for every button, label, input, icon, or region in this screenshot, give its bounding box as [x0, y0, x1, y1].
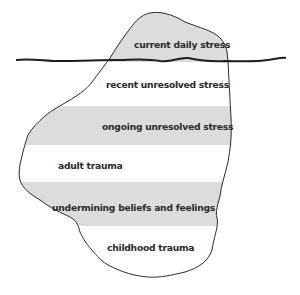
band-current-daily-stress — [0, 0, 300, 62]
label-recent-unresolved-stress: recent unresolved stress — [106, 79, 230, 90]
label-adult-trauma: adult trauma — [58, 160, 123, 171]
band-childhood-trauma — [0, 226, 300, 295]
label-ongoing-unresolved-stress: ongoing unresolved stress — [102, 121, 234, 132]
label-current-daily-stress: current daily stress — [134, 39, 231, 50]
label-childhood-trauma: childhood trauma — [107, 242, 194, 253]
label-undermining-beliefs-and-feelings: undermining beliefs and feelings — [52, 202, 216, 213]
band-adult-trauma — [0, 145, 300, 182]
iceberg-diagram: current daily stress recent unresolved s… — [0, 0, 300, 295]
